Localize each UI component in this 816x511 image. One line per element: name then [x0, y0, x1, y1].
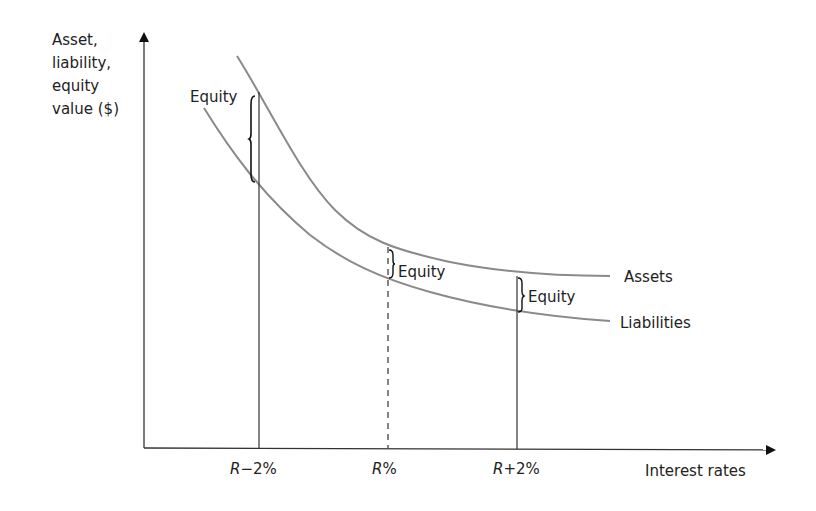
equity-label-3: Equity	[528, 288, 576, 306]
equity-brace-3	[518, 278, 524, 312]
tick-r-minus-2: R−2%	[230, 460, 277, 478]
equity-brace-1	[249, 96, 255, 182]
equity-diagram: Asset, liability, equity value ($) Equit…	[0, 0, 816, 511]
tick-r-plus-2: R+2%	[493, 460, 540, 478]
equity-label-1: Equity	[190, 88, 238, 106]
equity-label-2: Equity	[398, 263, 446, 281]
x-axis	[144, 448, 774, 450]
x-axis-label: Interest rates	[645, 462, 746, 480]
assets-curve	[237, 56, 610, 276]
equity-brace-2	[389, 250, 395, 278]
tick-r: R%	[372, 460, 397, 478]
y-axis-label: Asset, liability, equity value ($)	[52, 31, 119, 118]
assets-label: Assets	[624, 268, 673, 286]
liabilities-label: Liabilities	[620, 314, 691, 332]
